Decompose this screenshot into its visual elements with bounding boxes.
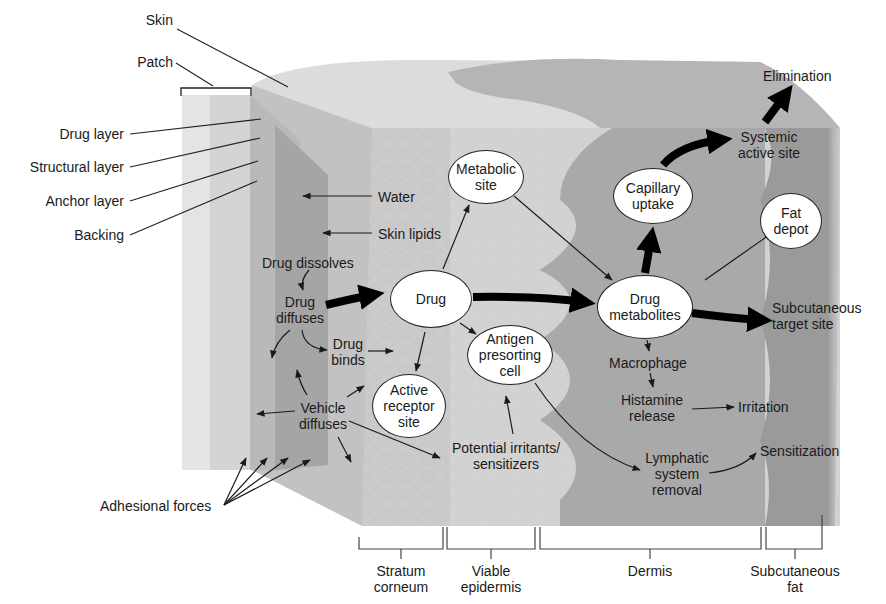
label-drug-layer: Drug layer bbox=[0, 126, 124, 142]
layer-label-subcutaneous-fat: Subcutaneous fat bbox=[740, 563, 850, 595]
label-sensitization: Sensitization bbox=[760, 443, 839, 459]
node-drug: Drug bbox=[390, 270, 472, 328]
label-vehicle-diffuses: Vehicle diffuses bbox=[292, 400, 354, 432]
label-adhesional-forces: Adhesional forces bbox=[100, 498, 211, 514]
node-active-receptor-site: Activereceptorsite bbox=[372, 374, 446, 438]
label-elimination: Elimination bbox=[763, 68, 831, 84]
label-drug-binds: Drug binds bbox=[326, 336, 370, 368]
label-skin: Skin bbox=[100, 12, 173, 28]
node-antigen-presorting-cell: Antigenpresortingcell bbox=[467, 325, 553, 385]
layer-label-viable-epidermis: Viable epidermis bbox=[441, 563, 541, 595]
node-drug-metabolites: Drugmetabolites bbox=[597, 275, 693, 339]
label-skin-lipids: Skin lipids bbox=[378, 226, 441, 242]
label-potential-irritants: Potential irritants/ sensitizers bbox=[443, 440, 569, 472]
node-capillary-uptake: Capillaryuptake bbox=[613, 168, 693, 224]
layer-label-dermis: Dermis bbox=[600, 563, 700, 579]
label-water: Water bbox=[378, 189, 415, 205]
label-drug-diffuses: Drug diffuses bbox=[268, 294, 332, 326]
label-patch: Patch bbox=[100, 54, 173, 70]
transdermal-diagram: Skin Patch Drug layer Structural layer A… bbox=[0, 0, 886, 604]
node-metabolic-site: Metabolicsite bbox=[448, 150, 524, 204]
label-lymphatic-removal: Lymphatic system removal bbox=[640, 450, 714, 498]
patch-bracket bbox=[181, 88, 251, 96]
label-backing: Backing bbox=[0, 227, 124, 243]
label-systemic-active-site: Systemic active site bbox=[728, 129, 810, 161]
layer-label-stratum-corneum: Stratum corneum bbox=[351, 563, 451, 595]
label-histamine-release: Histamine release bbox=[616, 392, 688, 424]
label-macrophage: Macrophage bbox=[609, 355, 687, 371]
label-drug-dissolves: Drug dissolves bbox=[262, 255, 354, 271]
node-fat-depot: Fatdepot bbox=[760, 193, 822, 249]
label-structural-layer: Structural layer bbox=[0, 159, 124, 175]
label-irritation: Irritation bbox=[738, 399, 789, 415]
label-subcutaneous-target: Subcutaneous target site bbox=[772, 300, 862, 332]
label-anchor-layer: Anchor layer bbox=[0, 193, 124, 209]
